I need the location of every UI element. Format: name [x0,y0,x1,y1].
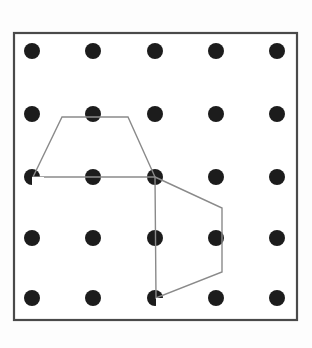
peg-dot[interactable] [208,169,224,185]
peg-dot[interactable] [85,290,101,306]
peg-dot[interactable] [85,43,101,59]
peg-dot[interactable] [208,290,224,306]
peg-dot[interactable] [24,43,40,59]
peg-dot[interactable] [208,106,224,122]
peg-dot[interactable] [147,106,163,122]
peg-dot[interactable] [269,230,285,246]
notch-left-vertex [32,177,44,187]
geoboard-figure [0,0,312,348]
peg-dot[interactable] [208,43,224,59]
peg-dot[interactable] [85,106,101,122]
notch-bottom-vertex [156,298,168,307]
peg-dot[interactable] [269,169,285,185]
peg-dot[interactable] [24,230,40,246]
geoboard-canvas [0,0,312,348]
peg-dot[interactable] [85,230,101,246]
peg-dot[interactable] [147,43,163,59]
peg-dot[interactable] [269,106,285,122]
peg-dot[interactable] [269,290,285,306]
peg-dot[interactable] [269,43,285,59]
peg-dot[interactable] [24,290,40,306]
peg-dot[interactable] [24,106,40,122]
